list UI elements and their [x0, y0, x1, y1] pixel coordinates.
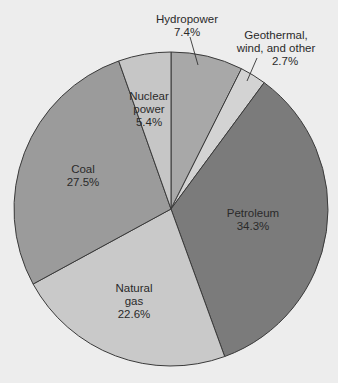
pie-chart: Hydropower7.4%Geothermal,wind, and other… — [0, 0, 338, 383]
label-geothermal-wind-and-other: Geothermal,wind, and other2.7% — [236, 29, 316, 67]
pie-slices — [14, 52, 328, 366]
label-hydropower: Hydropower7.4% — [156, 13, 218, 38]
label-coal: Coal27.5% — [67, 163, 100, 188]
